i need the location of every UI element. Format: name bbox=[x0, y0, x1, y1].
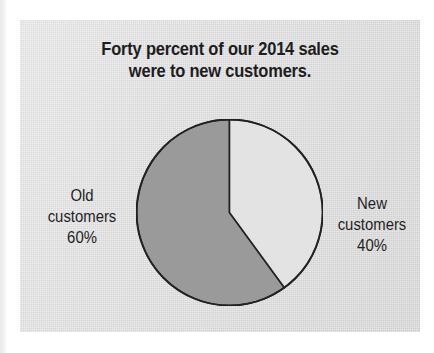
pie-label-old-value: 60% bbox=[34, 227, 131, 248]
chart-title-line-2: were to new customers. bbox=[32, 60, 408, 82]
pie-label-old-customers: Old customers 60% bbox=[34, 185, 131, 248]
pie-label-new-line-2: customers bbox=[327, 214, 416, 235]
figure-panel: Forty percent of our 2014 sales were to … bbox=[20, 20, 420, 332]
pie-label-new-line-1: New bbox=[327, 193, 416, 214]
pie-label-new-customers: New customers 40% bbox=[327, 193, 416, 256]
chart-title: Forty percent of our 2014 sales were to … bbox=[32, 38, 408, 82]
chart-title-line-1: Forty percent of our 2014 sales bbox=[32, 38, 408, 60]
pie-label-new-value: 40% bbox=[327, 235, 416, 256]
pie-label-old-line-1: Old bbox=[34, 185, 131, 206]
page-edge-strip bbox=[0, 0, 6, 353]
pie-chart-svg bbox=[136, 119, 323, 306]
pie-label-old-line-2: customers bbox=[34, 206, 131, 227]
pie-chart bbox=[136, 119, 323, 306]
